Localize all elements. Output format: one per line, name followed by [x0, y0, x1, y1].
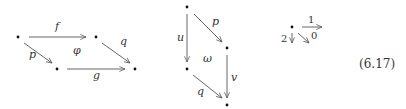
label-omega: ω [203, 52, 212, 65]
diagram-canvas: f p q g φ p u v q ω 1 2 0 (6.17) [0, 0, 406, 109]
equation-number: (6.17) [359, 57, 395, 71]
square-omega-diagram: p u v q ω [177, 6, 238, 107]
label-2: 2 [281, 33, 287, 44]
node-c [56, 68, 59, 71]
node-b [226, 47, 229, 50]
label-u: u [177, 31, 184, 44]
label-0: 0 [311, 30, 317, 41]
label-1: 1 [308, 14, 314, 25]
node-a [17, 36, 20, 39]
square-phi-diagram: f p q g φ [17, 20, 137, 82]
label-phi: φ [73, 44, 81, 57]
node-a [186, 6, 189, 9]
label-q: q [197, 85, 204, 98]
label-f: f [54, 20, 61, 33]
node-d [226, 104, 229, 107]
node-d [134, 68, 137, 71]
node-origin [291, 26, 294, 29]
label-g: g [93, 69, 100, 82]
label-q: q [120, 35, 127, 48]
node-c [186, 68, 189, 71]
label-p: p [29, 48, 36, 61]
arrow-0 [298, 33, 309, 43]
basic-graph-diagram: 1 2 0 [281, 14, 322, 44]
label-v: v [231, 71, 238, 84]
node-b [95, 36, 98, 39]
label-p: p [212, 15, 219, 28]
